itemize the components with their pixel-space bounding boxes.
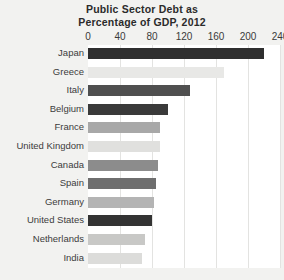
bar-row[interactable]: Japan — [0, 45, 284, 64]
bar[interactable] — [88, 104, 168, 115]
bar-category-label: Belgium — [0, 103, 84, 114]
x-axis-tick-label: 40 — [114, 31, 125, 42]
bar-row[interactable]: Netherlands — [0, 231, 284, 250]
bar[interactable] — [88, 85, 190, 96]
x-axis-tick-labels: 04080120160200240 — [0, 31, 284, 44]
bar[interactable] — [88, 141, 160, 152]
bar-category-label: Canada — [0, 159, 84, 170]
bar-category-label: Netherlands — [0, 233, 84, 244]
bar[interactable] — [88, 122, 160, 133]
bar-row[interactable]: Spain — [0, 175, 284, 194]
bar[interactable] — [88, 215, 152, 226]
bar-category-label: Germany — [0, 196, 84, 207]
bar[interactable] — [88, 197, 154, 208]
bar-rows: JapanGreeceItalyBelgiumFranceUnited King… — [0, 45, 284, 268]
bar-category-label: United Kingdom — [0, 140, 84, 151]
bar-category-label: India — [0, 252, 84, 263]
bar-category-label: Spain — [0, 177, 84, 188]
chart-title-line-2: Percentage of GDP, 2012 — [0, 16, 284, 29]
chart-title-line-1: Public Sector Debt as — [86, 3, 198, 15]
bar-row[interactable]: Belgium — [0, 101, 284, 120]
x-axis-tick-label: 240 — [272, 31, 284, 42]
x-axis-tick-label: 0 — [85, 31, 91, 42]
bar-row[interactable]: Germany — [0, 194, 284, 213]
x-axis-tick-label: 80 — [146, 31, 157, 42]
bar[interactable] — [88, 178, 156, 189]
x-axis-tick-label: 120 — [176, 31, 193, 42]
bar-row[interactable]: France — [0, 119, 284, 138]
x-axis-tick-label: 200 — [240, 31, 257, 42]
bar[interactable] — [88, 253, 142, 264]
bar-category-label: France — [0, 121, 84, 132]
bar-category-label: United States — [0, 214, 84, 225]
bar-category-label: Greece — [0, 66, 84, 77]
bar[interactable] — [88, 67, 224, 78]
chart-title: Public Sector Debt as Percentage of GDP,… — [0, 3, 284, 29]
bar[interactable] — [88, 234, 145, 245]
bar-row[interactable]: United Kingdom — [0, 138, 284, 157]
bar-category-label: Italy — [0, 84, 84, 95]
bar-row[interactable]: United States — [0, 212, 284, 231]
bar[interactable] — [88, 48, 264, 59]
bar-category-label: Japan — [0, 47, 84, 58]
x-axis-tick-label: 160 — [208, 31, 225, 42]
chart-container: Public Sector Debt as Percentage of GDP,… — [0, 0, 284, 280]
bar-row[interactable]: Greece — [0, 64, 284, 83]
bar-row[interactable]: India — [0, 250, 284, 269]
bar[interactable] — [88, 160, 158, 171]
bar-row[interactable]: Italy — [0, 82, 284, 101]
bar-row[interactable]: Canada — [0, 157, 284, 176]
